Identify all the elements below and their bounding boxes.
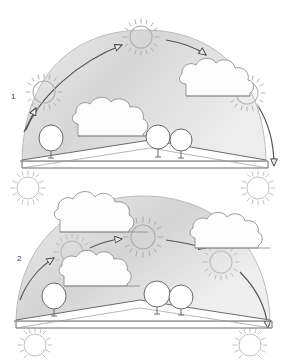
scene-2-label: 2 xyxy=(17,254,22,263)
scene-1-label: 1 xyxy=(11,92,16,101)
diagram-canvas: 1 xyxy=(0,0,288,360)
sun-path-diagram: 1 xyxy=(0,0,288,360)
